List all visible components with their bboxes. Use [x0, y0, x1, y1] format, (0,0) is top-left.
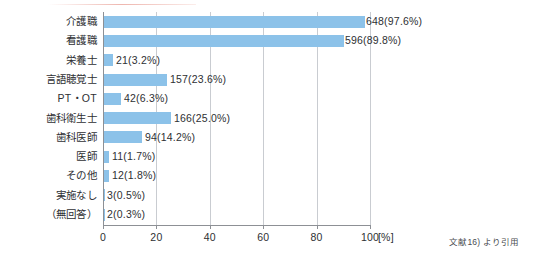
bar-value-label: 11(1.7%) — [112, 147, 155, 166]
bar-container — [104, 186, 105, 205]
bar — [104, 16, 365, 28]
bar-value-label: 42(6.3%) — [124, 89, 168, 108]
bar-container — [104, 147, 109, 166]
bar-container — [104, 12, 365, 31]
bar-container — [104, 205, 105, 224]
bar-value-label: 3(0.5%) — [107, 186, 145, 205]
x-tick-label: 60 — [243, 231, 283, 243]
bar-value-label: 12(1.8%) — [112, 166, 156, 185]
bar — [104, 131, 142, 143]
category-label: その他 — [0, 166, 97, 185]
bar-row: 歯科医師 94(14.2%) — [0, 128, 535, 147]
category-label: 栄養士 — [0, 51, 97, 70]
bar — [104, 209, 105, 221]
bar-value-label: 2(0.3%) — [107, 205, 145, 224]
bar-row: PT・OT 42(6.3%) — [0, 89, 535, 108]
source-citation: 文献16) より引用 — [449, 235, 520, 247]
category-label: 医師 — [0, 147, 97, 166]
x-axis-unit-label: [%] — [378, 231, 394, 243]
bar-container — [104, 166, 109, 185]
category-label: 実施なし — [0, 186, 97, 205]
bar-row: 実施なし 3(0.5%) — [0, 186, 535, 205]
x-axis-line — [103, 225, 371, 226]
bar-row: 介護職 648(97.6%) — [0, 12, 535, 31]
category-label: 歯科衛生士 — [0, 109, 97, 128]
category-label: （無回答） — [0, 205, 97, 224]
bar — [104, 54, 113, 66]
bar-value-label: 166(25.0%) — [174, 109, 230, 128]
tick-60 — [263, 225, 264, 229]
bar — [104, 93, 121, 105]
bar-row: 言語聴覚士 157(23.6%) — [0, 70, 535, 89]
bar-value-label: 596(89.8%) — [345, 31, 401, 50]
tick-20 — [156, 225, 157, 229]
bar-value-label: 648(97.6%) — [366, 12, 422, 31]
bar-row: （無回答） 2(0.3%) — [0, 205, 535, 224]
bar — [104, 170, 109, 182]
bar-row: 看護職 596(89.8%) — [0, 31, 535, 50]
bar-container — [104, 109, 171, 128]
category-label: 言語聴覚士 — [0, 70, 97, 89]
bar-value-label: 21(3.2%) — [116, 51, 160, 70]
bar-row: 栄養士 21(3.2%) — [0, 51, 535, 70]
x-tick-label: 40 — [190, 231, 230, 243]
bar-container — [104, 31, 344, 50]
tick-40 — [210, 225, 211, 229]
bar-container — [104, 70, 167, 89]
tick-100 — [370, 225, 371, 229]
bar-row: 歯科衛生士 166(25.0%) — [0, 109, 535, 128]
bar-row: 医師 11(1.7%) — [0, 147, 535, 166]
tick-0 — [103, 225, 104, 229]
tick-80 — [317, 225, 318, 229]
x-tick-label: 80 — [297, 231, 337, 243]
bar — [104, 112, 171, 124]
bar-value-label: 94(14.2%) — [145, 128, 195, 147]
chart-figure: 介護職 648(97.6%) 看護職 596(89.8%) 栄養士 21(3.2… — [0, 0, 535, 257]
category-label: 介護職 — [0, 12, 97, 31]
bar-container — [104, 51, 113, 70]
bar — [104, 151, 109, 163]
bar-row: その他 12(1.8%) — [0, 166, 535, 185]
x-tick-label: 0 — [83, 231, 123, 243]
category-label: PT・OT — [0, 89, 97, 108]
category-label: 看護職 — [0, 31, 97, 50]
bar-container — [104, 128, 142, 147]
bar — [104, 74, 167, 86]
bar — [104, 35, 344, 47]
bar — [104, 189, 105, 201]
x-tick-label: 20 — [136, 231, 176, 243]
bar-value-label: 157(23.6%) — [170, 70, 226, 89]
category-label: 歯科医師 — [0, 128, 97, 147]
horizontal-bar-chart: 介護職 648(97.6%) 看護職 596(89.8%) 栄養士 21(3.2… — [0, 0, 535, 257]
bar-container — [104, 89, 121, 108]
